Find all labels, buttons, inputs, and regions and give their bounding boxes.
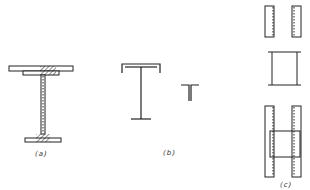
label-a: (a) bbox=[35, 150, 48, 158]
panel-b-sections bbox=[122, 64, 199, 119]
label-c: (c) bbox=[280, 181, 292, 189]
panel-a-girder bbox=[9, 66, 73, 142]
label-b: (b) bbox=[163, 149, 176, 157]
top-weld-hatch bbox=[40, 66, 56, 75]
panel-c-assembly bbox=[265, 6, 301, 177]
diagram-canvas bbox=[0, 0, 310, 190]
split-tee bbox=[181, 85, 199, 101]
bottom-weld-hatch bbox=[36, 134, 50, 142]
